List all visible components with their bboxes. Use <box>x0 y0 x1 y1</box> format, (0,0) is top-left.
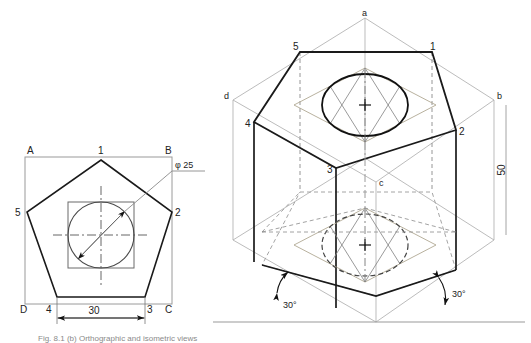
label-vertex-2: 2 <box>175 207 181 218</box>
label-box-a: a <box>362 8 367 18</box>
angle-right-30: 30° <box>439 278 466 305</box>
label-corner-b: B <box>165 145 172 156</box>
figure-caption: Fig. 8.1 (b) Orthographic and isometric … <box>38 334 197 343</box>
bottom-hidden-construction <box>262 192 456 232</box>
label-iso-vertex-5: 5 <box>293 41 299 52</box>
label-iso-vertex-2: 2 <box>459 126 465 137</box>
technical-drawing-svg: φ 25 30 A B C D 1 2 3 4 5 <box>0 0 531 343</box>
pentagon-outline <box>27 160 172 297</box>
angle-left-label: 30° <box>283 300 297 310</box>
label-box-b: b <box>497 91 502 101</box>
height-dimension: 50 <box>496 105 507 235</box>
height-dimension-label: 50 <box>496 164 507 176</box>
bottom-hole-centre-mark <box>359 239 371 251</box>
label-iso-vertex-3: 3 <box>327 164 333 175</box>
label-vertex-5: 5 <box>15 207 21 218</box>
bottom-pentagon-visible-edges <box>262 265 456 296</box>
drawing-canvas: φ 25 30 A B C D 1 2 3 4 5 <box>0 0 531 343</box>
angle-right-label: 30° <box>452 289 466 299</box>
label-vertex-3: 3 <box>147 304 153 315</box>
label-vertex-1: 1 <box>98 145 104 156</box>
label-box-c: c <box>379 178 384 188</box>
diameter-dimension-label: φ 25 <box>175 160 193 170</box>
prism-vertical-edges-hidden <box>300 52 432 192</box>
width-dimension: 30 <box>57 297 145 324</box>
isometric-view-group: 50 30° 30° a b c d 5 1 4 2 3 <box>213 8 525 322</box>
orthographic-view-group: φ 25 30 A B C D 1 2 3 4 5 <box>15 145 205 324</box>
label-iso-vertex-1: 1 <box>430 41 436 52</box>
bottom-hole-group <box>294 208 436 282</box>
top-hole-centre-mark <box>359 99 371 111</box>
diameter-dimension: φ 25 <box>78 160 205 259</box>
label-box-d: d <box>224 91 229 101</box>
width-dimension-label: 30 <box>88 305 100 316</box>
angle-left-30: 30° <box>277 272 297 310</box>
label-iso-vertex-4: 4 <box>245 118 251 129</box>
label-corner-c: C <box>165 304 172 315</box>
label-corner-a: A <box>27 145 34 156</box>
label-vertex-4: 4 <box>46 304 52 315</box>
bottom-pentagon <box>262 192 456 296</box>
label-corner-d: D <box>20 304 27 315</box>
